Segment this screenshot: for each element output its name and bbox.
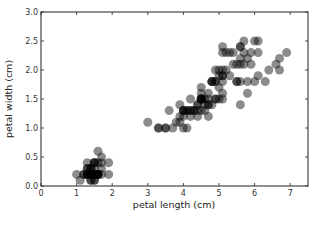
data-point [154,124,163,133]
data-point [168,124,177,133]
x-axis-label: petal length (cm) [133,199,215,210]
data-point [207,77,216,86]
data-point [229,60,238,69]
y-axis-ticks: 0.00.51.01.52.02.53.0 [25,8,308,191]
data-point [104,158,113,167]
x-tick-label: 3 [145,189,150,198]
data-point [86,170,95,179]
y-tick-label: 2.5 [25,37,38,46]
data-point [261,77,270,86]
data-point [197,83,206,92]
data-point [254,71,263,80]
x-tick-label: 6 [252,189,257,198]
y-tick-label: 0.0 [25,182,38,191]
data-point [165,106,174,115]
y-tick-label: 1.5 [25,95,38,104]
data-point [182,124,191,133]
data-point [218,77,227,86]
plot-frame [41,12,308,186]
data-point [200,100,209,109]
data-point [232,77,241,86]
scatter-plot: 01234567 0.00.51.01.52.02.53.0 petal len… [0,0,318,226]
data-point [239,37,248,46]
x-tick-label: 5 [216,189,221,198]
data-point [236,100,245,109]
data-point [236,54,245,63]
data-point [143,118,152,127]
data-point [229,48,238,57]
data-point [282,48,291,57]
data-point [182,106,191,115]
data-point [222,66,231,75]
data-point [247,48,256,57]
y-tick-label: 1.0 [25,124,38,133]
data-point [243,89,252,98]
data-point [264,66,273,75]
y-axis-label: petal width (cm) [3,60,14,138]
x-tick-label: 7 [288,189,293,198]
data-point [275,66,284,75]
y-tick-label: 0.5 [25,153,38,162]
y-tick-label: 3.0 [25,8,38,17]
x-tick-label: 4 [181,189,186,198]
data-point [254,37,263,46]
data-point [204,112,213,121]
data-point [186,95,195,104]
y-tick-label: 2.0 [25,66,38,75]
x-tick-label: 0 [38,189,43,198]
data-point [93,147,102,156]
data-points [72,37,291,185]
data-point [275,54,284,63]
x-tick-label: 1 [74,189,79,198]
data-point [104,170,113,179]
x-tick-label: 2 [110,189,115,198]
data-point [218,95,227,104]
watermark [0,214,318,221]
